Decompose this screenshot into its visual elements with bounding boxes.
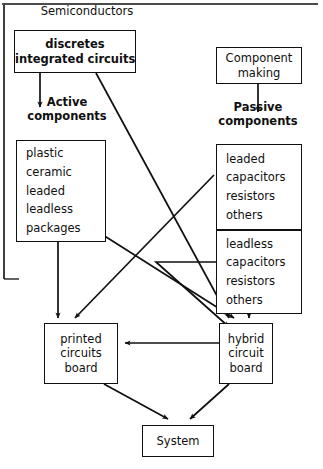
- label-passive-components: Passive components: [212, 101, 304, 129]
- leadless-item-capacitors: capacitors: [217, 253, 286, 272]
- edge-activelist-to-hybrid: [103, 235, 234, 318]
- pcb-line-3: board: [45, 361, 117, 375]
- node-hybrid-circuit-board[interactable]: hybrid circuit board: [219, 323, 273, 384]
- active-item-ceramic: ceramic: [17, 163, 72, 182]
- active-item-leadless: leadless: [17, 200, 73, 219]
- hcb-line-3: board: [220, 361, 272, 375]
- node-printed-circuits-board[interactable]: printed circuits board: [44, 323, 118, 384]
- label-semiconductors: Semiconductors: [22, 5, 152, 19]
- leaded-item-capacitors: capacitors: [217, 168, 286, 187]
- passive-line-2: components: [212, 115, 304, 129]
- pcb-line-1: printed: [45, 332, 117, 346]
- node-leaded-passives[interactable]: leaded capacitors resistors others: [216, 144, 302, 230]
- leaded-item-resistors: resistors: [217, 187, 275, 206]
- passive-line-1: Passive: [212, 101, 304, 115]
- label-active-components: Active components: [22, 96, 112, 124]
- node-active-component-types[interactable]: plastic ceramic leaded leadless packages: [16, 140, 106, 242]
- semiconductors-text: Semiconductors: [22, 5, 152, 19]
- compmaking-line-2: making: [217, 66, 301, 80]
- system-label: System: [143, 434, 213, 448]
- leaded-item-others: others: [217, 206, 263, 225]
- node-system[interactable]: System: [142, 425, 214, 457]
- node-component-making[interactable]: Component making: [216, 47, 302, 84]
- active-item-packages: packages: [17, 219, 81, 238]
- leadless-item-others: others: [217, 291, 263, 310]
- edge-pcb-to-system: [104, 384, 168, 419]
- active-line-1: Active: [22, 96, 112, 110]
- node-leadless-passives[interactable]: leadless capacitors resistors others: [216, 230, 302, 314]
- discretes-line-2: integrated circuits: [15, 52, 135, 66]
- edge-hybrid-to-system: [190, 384, 229, 419]
- active-item-plastic: plastic: [17, 144, 64, 163]
- active-item-leaded: leaded: [17, 182, 65, 201]
- edge-discretes-to-hybrid: [96, 73, 229, 318]
- node-discretes-integrated-circuits[interactable]: discretes integrated circuits: [14, 30, 136, 73]
- leaded-item-leaded: leaded: [217, 150, 265, 169]
- leadless-item-leadless: leadless: [217, 235, 273, 254]
- discretes-line-1: discretes: [15, 37, 135, 51]
- pcb-line-2: circuits: [45, 346, 117, 360]
- hcb-line-1: hybrid: [220, 332, 272, 346]
- diagram-canvas: Semiconductors discretes integrated circ…: [0, 0, 323, 469]
- compmaking-line-1: Component: [217, 51, 301, 65]
- active-line-2: components: [22, 110, 112, 124]
- hcb-line-2: circuit: [220, 346, 272, 360]
- leadless-item-resistors: resistors: [217, 272, 275, 291]
